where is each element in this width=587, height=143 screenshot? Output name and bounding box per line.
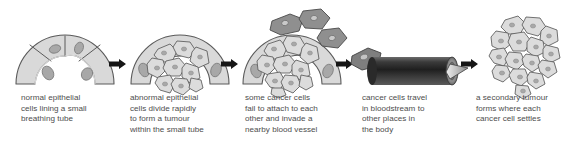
caption-stage-2: abnormal epithelial cells divide rapidly… — [130, 93, 234, 135]
stage-5-illustration — [489, 16, 560, 99]
caption-stage-3: some cancer cells fail to attach to each… — [245, 93, 353, 135]
stage-2-illustration — [131, 35, 229, 95]
stage-1-illustration — [16, 35, 114, 84]
stage-4-illustration — [351, 48, 468, 85]
caption-stage-1: normal epithelial cells lining a small b… — [21, 93, 125, 125]
stage-3-illustration — [243, 9, 347, 98]
blood-vessel-body — [372, 57, 452, 85]
caption-stage-4: cancer cells travel in bloodstream to ot… — [362, 93, 458, 135]
caption-stage-5: a secondary tumour forms where each canc… — [476, 93, 580, 125]
blood-vessel-left-end — [367, 57, 377, 85]
